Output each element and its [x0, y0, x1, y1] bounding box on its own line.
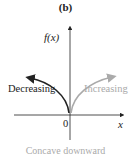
increasing-label: Increasing	[84, 84, 128, 95]
caption: Concave downward	[0, 146, 131, 156]
decreasing-label: Decreasing	[8, 84, 55, 95]
origin-label: 0	[63, 119, 68, 130]
x-axis-label: x	[118, 119, 123, 130]
graph	[0, 0, 131, 164]
y-axis-label: f(x)	[44, 32, 59, 43]
